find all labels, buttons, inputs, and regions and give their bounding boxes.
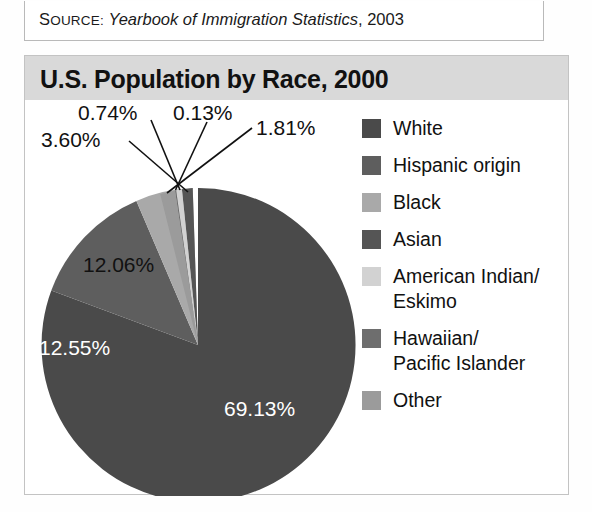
pie-label-white: 69.13%: [224, 397, 295, 420]
legend-label-black: Black: [393, 190, 441, 215]
pie-label-american-indian: 0.74%: [78, 101, 138, 124]
legend-label-american-indian-eskimo: American Indian/ Eskimo: [393, 264, 539, 314]
legend-label-hispanic-origin: Hispanic origin: [393, 153, 521, 178]
page-title: U.S. Population by Race, 2000: [40, 65, 388, 94]
legend: White Hispanic origin Black Asian Americ…: [362, 116, 562, 425]
source-title: Yearbook of Immigration Statistics: [109, 10, 358, 28]
legend-item-other[interactable]: Other: [362, 388, 562, 413]
pie-label-other: 1.81%: [256, 116, 316, 139]
legend-swatch-hispanic-origin: [362, 156, 381, 175]
legend-swatch-hawaiian-pacific-islander: [362, 329, 381, 348]
legend-label-asian: Asian: [393, 227, 442, 252]
source-year: , 2003: [358, 10, 404, 28]
source-keyword: SOURCE:: [39, 13, 104, 28]
legend-item-white[interactable]: White: [362, 116, 562, 141]
legend-label-white: White: [393, 116, 443, 141]
chart-container: U.S. Population by Race, 2000: [24, 55, 569, 495]
legend-swatch-black: [362, 193, 381, 212]
legend-item-hispanic-origin[interactable]: Hispanic origin: [362, 153, 562, 178]
pie-chart: 0.74% 0.13% 1.81% 3.60% 12.06% 12.55% 69…: [25, 100, 375, 496]
legend-item-asian[interactable]: Asian: [362, 227, 562, 252]
leader-line-hawaiian: [176, 122, 208, 190]
pie-label-hawaiian: 0.13%: [173, 101, 233, 124]
legend-item-black[interactable]: Black: [362, 190, 562, 215]
legend-label-other: Other: [393, 388, 442, 413]
top-source-line: SOURCE: Yearbook of Immigration Statisti…: [39, 10, 404, 29]
legend-item-hawaiian-pacific-islander[interactable]: Hawaiian/ Pacific Islander: [362, 326, 562, 376]
legend-swatch-other: [362, 391, 381, 410]
legend-swatch-white: [362, 119, 381, 138]
legend-swatch-american-indian-eskimo: [362, 267, 381, 286]
figure-page: SOURCE: Yearbook of Immigration Statisti…: [0, 0, 592, 512]
leader-line-other: [167, 128, 252, 193]
legend-swatch-asian: [362, 230, 381, 249]
pie-svg: 0.74% 0.13% 1.81% 3.60% 12.06% 12.55% 69…: [25, 100, 375, 496]
top-source-box: SOURCE: Yearbook of Immigration Statisti…: [24, 1, 544, 41]
legend-label-hawaiian-pacific-islander: Hawaiian/ Pacific Islander: [393, 326, 525, 376]
legend-item-american-indian-eskimo[interactable]: American Indian/ Eskimo: [362, 264, 562, 314]
pie-label-black: 12.06%: [83, 253, 154, 276]
pie-label-hispanic-origin: 12.55%: [39, 336, 110, 359]
pie-leader-lines: [129, 120, 252, 193]
pie-label-asian: 3.60%: [41, 128, 101, 151]
leader-line-american-indian: [151, 120, 180, 190]
